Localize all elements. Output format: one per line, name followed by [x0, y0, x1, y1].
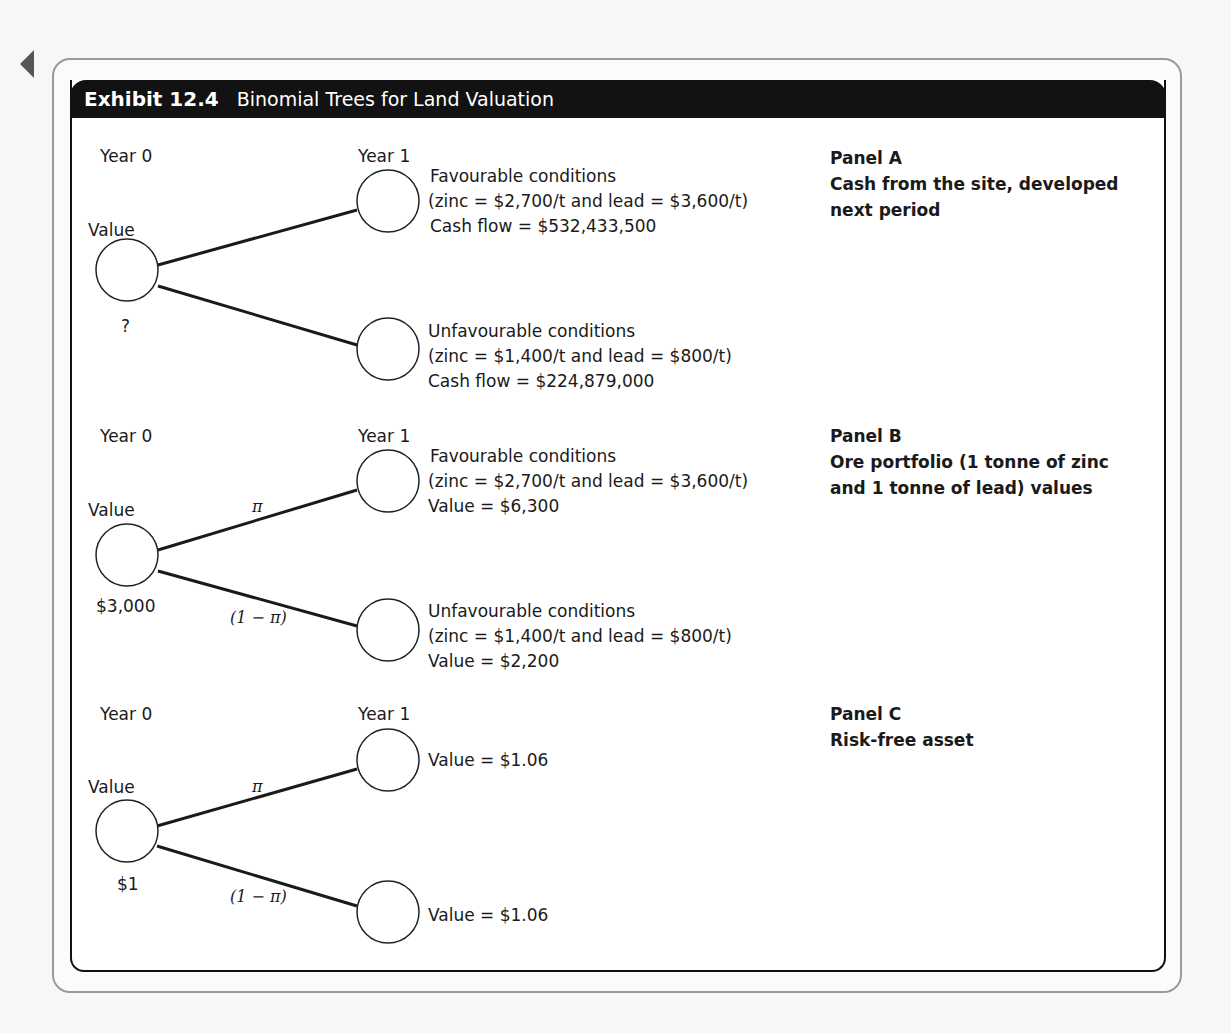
panel-a-year0-label: Year 0: [99, 146, 152, 166]
panel-b-root-value: $3,000: [96, 596, 155, 616]
panel-c-up-value: Value = $1.06: [428, 750, 548, 770]
panel-a-year1-label: Year 1: [357, 146, 410, 166]
panel-a-root-label: Value: [88, 220, 135, 240]
binomial-trees-diagram: Year 0 Year 1 Value ? Favourable conditi…: [0, 0, 1231, 1033]
panel-b-down-line1: Unfavourable conditions: [428, 601, 635, 621]
panel-c-description-line1: Risk-free asset: [830, 730, 974, 750]
panel-a-down-line2: (zinc = $1,400/t and lead = $800/t): [428, 346, 732, 366]
panel-a-down-node: [357, 318, 419, 380]
panel-b-down-node: [357, 599, 419, 661]
panel-a-down-edge: [158, 286, 357, 345]
panel-b-description-line2: and 1 tonne of lead) values: [830, 478, 1093, 498]
panel-a-down-line1: Unfavourable conditions: [428, 321, 635, 341]
panel-c: Year 0 Year 1 Value π (1 − π) $1 Value =…: [88, 704, 974, 943]
panel-c-year0-label: Year 0: [99, 704, 152, 724]
panel-b-root-node: [96, 524, 158, 586]
panel-c-down-probability: (1 − π): [230, 887, 287, 906]
panel-a-description-line2: next period: [830, 200, 940, 220]
panel-b-up-line1: Favourable conditions: [430, 446, 616, 466]
panel-c-root-label: Value: [88, 777, 135, 797]
panel-b-year1-label: Year 1: [357, 426, 410, 446]
panel-b-up-line2: (zinc = $2,700/t and lead = $3,600/t): [428, 471, 748, 491]
panel-b-down-probability: (1 − π): [230, 608, 287, 627]
panel-b-label: Panel B: [830, 426, 902, 446]
panel-a: Year 0 Year 1 Value ? Favourable conditi…: [88, 146, 1119, 391]
panel-c-down-node: [357, 881, 419, 943]
panel-a-down-line3: Cash flow = $224,879,000: [428, 371, 654, 391]
panel-c-up-node: [357, 729, 419, 791]
panel-c-down-value: Value = $1.06: [428, 905, 548, 925]
panel-a-description-line1: Cash from the site, developed: [830, 174, 1119, 194]
panel-b-root-label: Value: [88, 500, 135, 520]
panel-b-up-line3: Value = $6,300: [428, 496, 559, 516]
panel-a-root-value: ?: [121, 316, 130, 336]
panel-c-year1-label: Year 1: [357, 704, 410, 724]
panel-a-up-line1: Favourable conditions: [430, 166, 616, 186]
panel-a-up-line3: Cash flow = $532,433,500: [430, 216, 656, 236]
panel-c-root-value: $1: [117, 874, 139, 894]
panel-b-description-line1: Ore portfolio (1 tonne of zinc: [830, 452, 1109, 472]
panel-a-up-line2: (zinc = $2,700/t and lead = $3,600/t): [428, 191, 748, 211]
panel-a-up-edge: [158, 210, 357, 265]
panel-c-up-probability: π: [251, 777, 263, 796]
panel-b-up-node: [357, 450, 419, 512]
panel-a-root-node: [96, 239, 158, 301]
panel-a-up-node: [357, 170, 419, 232]
panel-c-label: Panel C: [830, 704, 901, 724]
panel-b-down-line3: Value = $2,200: [428, 651, 559, 671]
panel-b: Year 0 Year 1 Value π (1 − π) $3,000 Fav…: [88, 426, 1109, 671]
panel-b-down-line2: (zinc = $1,400/t and lead = $800/t): [428, 626, 732, 646]
panel-b-year0-label: Year 0: [99, 426, 152, 446]
panel-a-label: Panel A: [830, 148, 903, 168]
panel-b-up-probability: π: [251, 497, 263, 516]
panel-c-root-node: [96, 800, 158, 862]
